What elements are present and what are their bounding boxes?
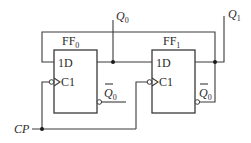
- cp-label: CP: [14, 122, 30, 136]
- q1-output-label: Q1: [228, 7, 241, 23]
- ff1-clock-inversion-bubble-icon: [147, 80, 152, 85]
- ff1-qbar-bubble-icon: [195, 100, 200, 105]
- ff1-clock-triangle-icon: [152, 78, 158, 86]
- ff1-qbar-label: Q0: [199, 86, 212, 102]
- clock-wiring: CP: [14, 82, 147, 136]
- ff1-title: FF1: [163, 34, 180, 50]
- ff1-clock-wire: [136, 82, 147, 129]
- ff0-title: FF0: [62, 34, 79, 50]
- ff1-q-wire: [195, 16, 224, 62]
- q0-output-label: Q0: [116, 9, 129, 25]
- ff0-clock-wire: [42, 82, 49, 129]
- ff1-clk-label: C1: [159, 75, 173, 89]
- q0-junction-dot: [111, 60, 115, 64]
- q1-junction-dot: [213, 60, 217, 64]
- circuit-diagram: FF0 1D C1 Q0 Q0 FF1 1D C1 Q1 Q0: [0, 0, 251, 143]
- ff0-clk-label: C1: [61, 75, 75, 89]
- flipflop-ff0: FF0 1D C1 Q0 Q0: [49, 9, 152, 113]
- ff0-clock-inversion-bubble-icon: [49, 80, 54, 85]
- ff0-qbar-label: Q0: [104, 86, 117, 102]
- ff0-qbar-bubble-icon: [97, 100, 102, 105]
- ff0-d-label: 1D: [58, 56, 73, 70]
- flipflop-ff1: FF1 1D C1 Q1 Q0: [147, 7, 240, 113]
- ff1-d-label: 1D: [156, 56, 171, 70]
- cp-junction-dot: [40, 127, 44, 131]
- ff0-clock-triangle-icon: [54, 78, 60, 86]
